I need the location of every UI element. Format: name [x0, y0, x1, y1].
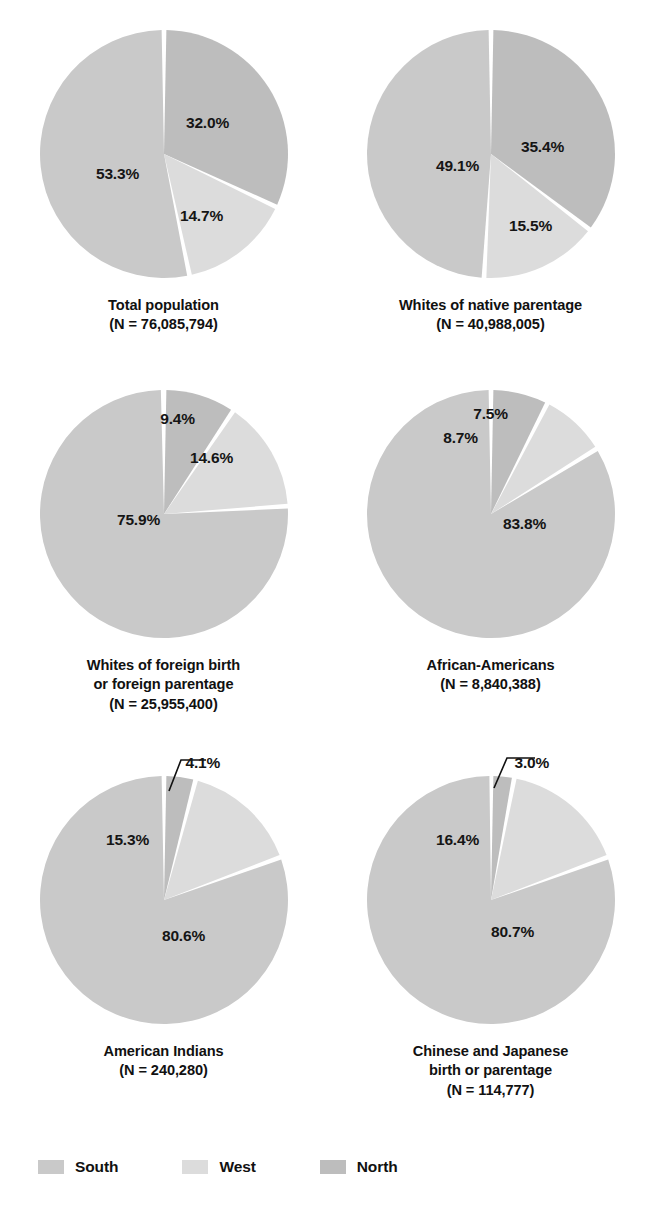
leader-percent-label: 3.0%: [515, 754, 550, 772]
legend-swatch-west: [182, 1160, 208, 1174]
pie-svg: [36, 26, 292, 282]
pie-caption: Whites of foreign birth or foreign paren…: [87, 656, 240, 714]
pie-slice-south: [367, 30, 491, 278]
pie-graphic: 35.4%15.5%49.1%: [363, 26, 619, 282]
legend-swatch-north: [320, 1160, 346, 1174]
pie-caption: Whites of native parentage (N = 40,988,0…: [399, 296, 582, 335]
leader-percent-label: 4.1%: [186, 754, 221, 772]
legend-item-south[interactable]: South: [38, 1158, 118, 1176]
legend-label-west: West: [219, 1158, 255, 1176]
pie-chart-african-americans: 7.5%8.7%83.8%African-Americans (N = 8,84…: [327, 386, 654, 746]
leader-line-svg: [36, 746, 292, 1002]
pie-chart-chinese-and-japanese: 16.4%80.7%3.0%Chinese and Japanese birth…: [327, 746, 654, 1111]
pie-graphic: 32.0%14.7%53.3%: [36, 26, 292, 282]
pie-svg: [36, 386, 292, 642]
chart-legend: SouthWestNorth: [38, 1158, 398, 1176]
pie-chart-total-population: 32.0%14.7%53.3%Total population (N = 76,…: [0, 26, 327, 386]
pie-chart-grid: 32.0%14.7%53.3%Total population (N = 76,…: [0, 26, 654, 1111]
pie-chart-figure: 32.0%14.7%53.3%Total population (N = 76,…: [0, 0, 654, 1209]
pie-caption: African-Americans (N = 8,840,388): [426, 656, 554, 695]
pie-svg: [363, 386, 619, 642]
pie-graphic: 15.3%80.6%4.1%: [36, 772, 292, 1028]
legend-item-west[interactable]: West: [182, 1158, 255, 1176]
pie-graphic: 16.4%80.7%3.0%: [363, 772, 619, 1028]
pie-caption: American Indians (N = 240,280): [103, 1042, 223, 1081]
pie-graphic: 9.4%14.6%75.9%: [36, 386, 292, 642]
pie-svg: [363, 26, 619, 282]
pie-chart-whites-foreign-birth-or-parentage: 9.4%14.6%75.9%Whites of foreign birth or…: [0, 386, 327, 746]
pie-graphic: 7.5%8.7%83.8%: [363, 386, 619, 642]
leader-line-svg: [363, 746, 619, 1002]
pie-chart-american-indians: 15.3%80.6%4.1%American Indians (N = 240,…: [0, 746, 327, 1111]
pie-caption: Chinese and Japanese birth or parentage …: [413, 1042, 568, 1100]
legend-label-south: South: [75, 1158, 118, 1176]
legend-label-north: North: [357, 1158, 398, 1176]
pie-chart-whites-native-parentage: 35.4%15.5%49.1%Whites of native parentag…: [327, 26, 654, 386]
legend-item-north[interactable]: North: [320, 1158, 398, 1176]
legend-swatch-south: [38, 1160, 64, 1174]
pie-caption: Total population (N = 76,085,794): [108, 296, 219, 335]
